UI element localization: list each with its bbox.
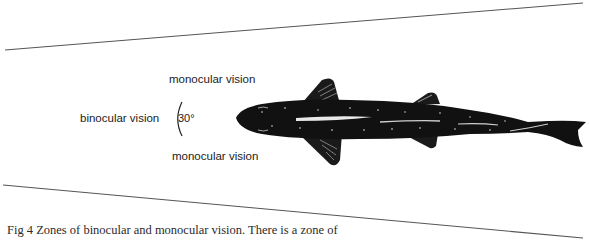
figure-caption: Fig 4 Zones of binocular and monocular v… (7, 224, 338, 237)
monocular-vision-top-label: monocular vision (169, 74, 255, 86)
angle-value-label: 30° (178, 113, 195, 124)
monocular-vision-bottom-label: monocular vision (172, 151, 258, 163)
binocular-vision-label: binocular vision (80, 113, 159, 125)
upper-sight-line (5, 3, 583, 50)
fish-illustration (236, 78, 586, 165)
fish-body (236, 100, 586, 148)
figure-binocular-monocular-vision: binocular vision monocular vision monocu… (0, 0, 589, 242)
